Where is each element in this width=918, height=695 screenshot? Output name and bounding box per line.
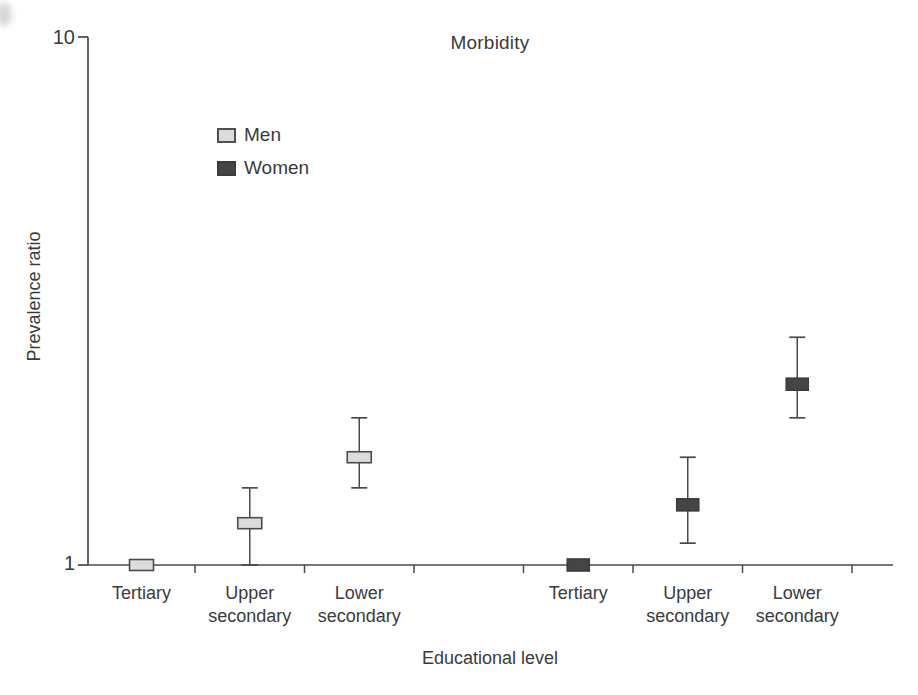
data-box-women <box>567 559 589 571</box>
data-box-women <box>786 378 808 390</box>
x-tick-label: Lowersecondary <box>727 582 867 628</box>
morbidity-prevalence-chart: Morbidity Prevalence ratio Educational l… <box>0 0 918 695</box>
data-box-men <box>238 518 262 529</box>
data-box-men <box>130 560 154 571</box>
x-tick-label: Lowersecondary <box>289 582 429 628</box>
data-box-men <box>347 452 371 463</box>
data-box-women <box>677 499 699 511</box>
